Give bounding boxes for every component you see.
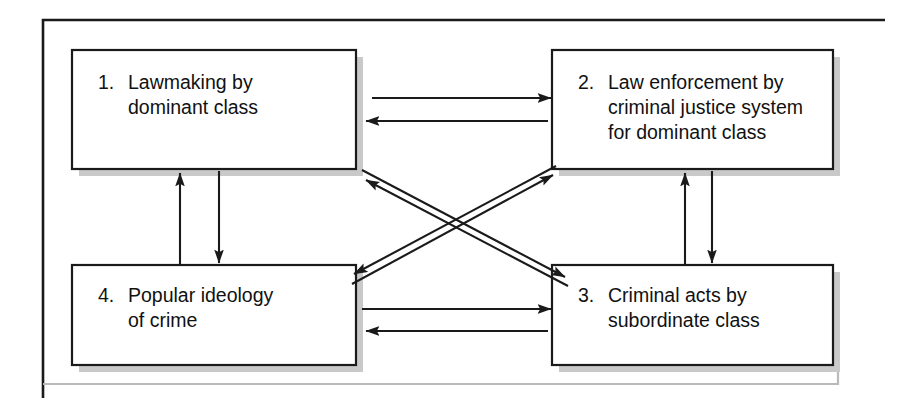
- box-4-number: 4.: [98, 283, 114, 308]
- box-1-line-1: Lawmaking by: [128, 70, 253, 95]
- box-4-line-1: Popular ideology: [128, 283, 273, 308]
- box-2-line-2: criminal justice system: [608, 95, 803, 120]
- box-4[interactable]: [72, 265, 356, 365]
- box-2-line-3: for dominant class: [608, 120, 766, 145]
- box-4-line-2: of crime: [128, 308, 197, 333]
- box-2-number: 2.: [578, 70, 594, 95]
- box-1-number: 1.: [98, 70, 114, 95]
- diagram-canvas: [0, 0, 907, 416]
- box-2-line-1: Law enforcement by: [608, 70, 784, 95]
- box-3-line-1: Criminal acts by: [608, 283, 747, 308]
- arrow-3-to-1: [366, 180, 568, 286]
- box-3-number: 3.: [578, 283, 594, 308]
- arrow-4-to-2: [352, 175, 553, 284]
- box-3-line-2: subordinate class: [608, 308, 760, 333]
- box-1-line-2: dominant class: [128, 95, 258, 120]
- diagram-page: 1. Lawmaking by dominant class 2. Law en…: [0, 0, 907, 416]
